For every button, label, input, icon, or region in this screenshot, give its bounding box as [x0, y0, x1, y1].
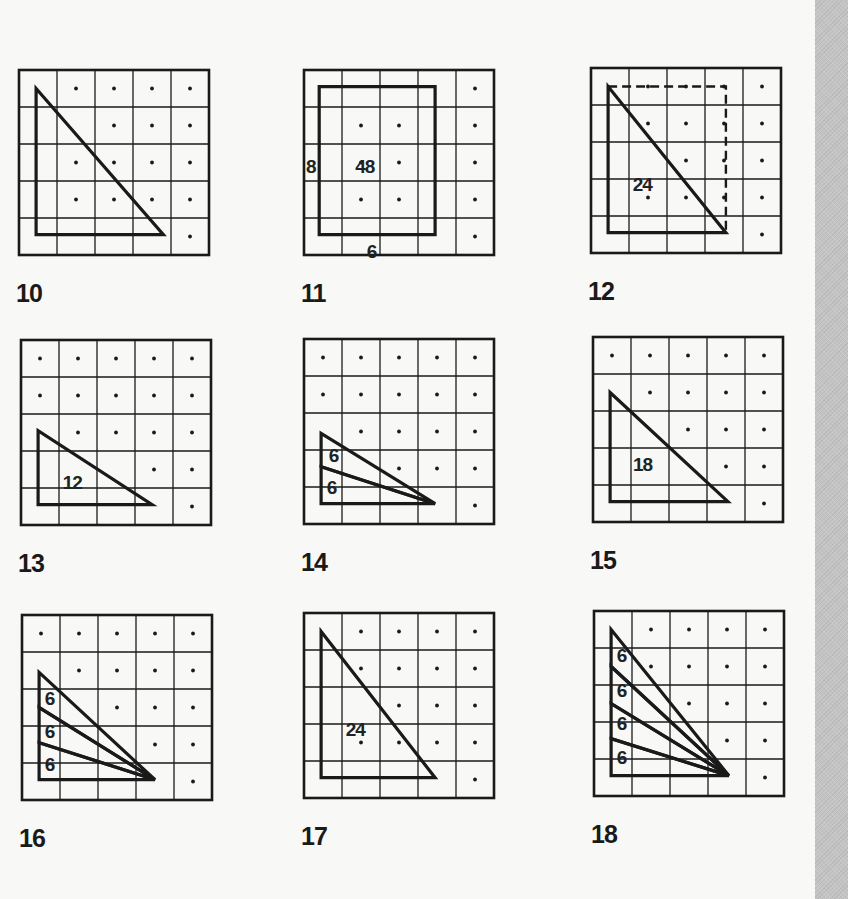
grid-dot: [684, 196, 688, 200]
grid-dot: [686, 354, 690, 358]
problem-number: 16: [19, 824, 45, 853]
grid-dot: [473, 356, 477, 360]
grid-dot: [473, 778, 477, 782]
grid-dot: [74, 87, 78, 91]
grid-dot: [190, 431, 194, 435]
grid-dot: [150, 87, 154, 91]
grid-dot: [686, 391, 690, 395]
grid-dot: [473, 198, 477, 202]
grid-dot: [397, 198, 401, 202]
grid-dot: [646, 196, 650, 200]
grid-dot: [435, 467, 439, 471]
grid-dot: [397, 161, 401, 165]
grid-dot: [473, 667, 477, 671]
grid-dot: [473, 393, 477, 397]
grid-dot: [724, 354, 728, 358]
grid-diagram: [21, 340, 211, 525]
grid-dot: [114, 394, 118, 398]
grid-dot: [687, 628, 691, 632]
grid-dot: [649, 628, 653, 632]
grid-dot: [188, 87, 192, 91]
grid-dot: [115, 669, 119, 673]
grid-dot: [760, 122, 764, 126]
grid-dot: [188, 124, 192, 128]
grid-dot: [152, 394, 156, 398]
grid-dot: [684, 159, 688, 163]
area-label: 6: [367, 242, 377, 261]
grid-dot: [76, 394, 80, 398]
grid-dot: [435, 741, 439, 745]
grid-dot: [760, 159, 764, 163]
grid-dot: [112, 124, 116, 128]
grid-dot: [397, 630, 401, 634]
area-label: 6: [45, 722, 55, 741]
grid-dot: [321, 356, 325, 360]
grid-dot: [152, 357, 156, 361]
grid-dot: [188, 235, 192, 239]
grid-dot: [152, 431, 156, 435]
grid-dot: [760, 233, 764, 237]
grid-dot: [725, 739, 729, 743]
grid-dot: [190, 394, 194, 398]
problem-number: 10: [16, 279, 42, 308]
grid-dot: [153, 706, 157, 710]
grid-dot: [725, 665, 729, 669]
grid-dot: [74, 161, 78, 165]
grid-dot: [473, 235, 477, 239]
grid-dot: [762, 502, 766, 506]
area-label: 6: [617, 714, 627, 733]
grid-dot: [684, 122, 688, 126]
grid-dot: [112, 87, 116, 91]
grid-dot: [763, 739, 767, 743]
grid-dot: [610, 354, 614, 358]
grid-diagram: [304, 613, 494, 798]
area-label: 6: [617, 646, 627, 665]
grid-dot: [687, 665, 691, 669]
grid-dot: [191, 743, 195, 747]
grid-dot: [359, 124, 363, 128]
grid-dot: [473, 87, 477, 91]
grid-dot: [112, 161, 116, 165]
grid-dot: [359, 198, 363, 202]
grid-dot: [397, 467, 401, 471]
grid-dot: [359, 356, 363, 360]
grid-dot: [359, 630, 363, 634]
grid-dot: [153, 743, 157, 747]
problem-number: 13: [18, 549, 44, 578]
grid-dot: [763, 628, 767, 632]
grid-dot: [114, 357, 118, 361]
grid-dot: [762, 354, 766, 358]
problem-number: 18: [591, 820, 617, 849]
grid-dot: [646, 122, 650, 126]
area-label: 24: [346, 720, 365, 739]
grid-dot: [760, 196, 764, 200]
grid-dot: [39, 632, 43, 636]
grid-dot: [762, 391, 766, 395]
grid-dot: [114, 431, 118, 435]
grid-dot: [397, 124, 401, 128]
grid-dot: [397, 430, 401, 434]
grid-dot: [435, 667, 439, 671]
page-edge-strip: [815, 0, 848, 899]
grid-dot: [397, 356, 401, 360]
grid-diagram: [591, 68, 781, 253]
grid-dot: [77, 632, 81, 636]
grid-dot: [150, 124, 154, 128]
area-label: 18: [633, 455, 652, 474]
grid-dot: [435, 393, 439, 397]
area-label: 6: [617, 681, 627, 700]
triangle-shape: [39, 743, 155, 780]
triangle-shape: [36, 89, 163, 235]
grid-dot: [646, 85, 650, 89]
grid-dot: [359, 430, 363, 434]
grid-dot: [74, 198, 78, 202]
problem-number: 17: [301, 822, 327, 851]
grid-dot: [190, 505, 194, 509]
grid-dot: [724, 428, 728, 432]
grid-dot: [473, 161, 477, 165]
grid-dot: [473, 430, 477, 434]
grid-dot: [473, 504, 477, 508]
grid-dot: [762, 465, 766, 469]
grid-dot: [763, 776, 767, 780]
grid-dot: [359, 741, 363, 745]
